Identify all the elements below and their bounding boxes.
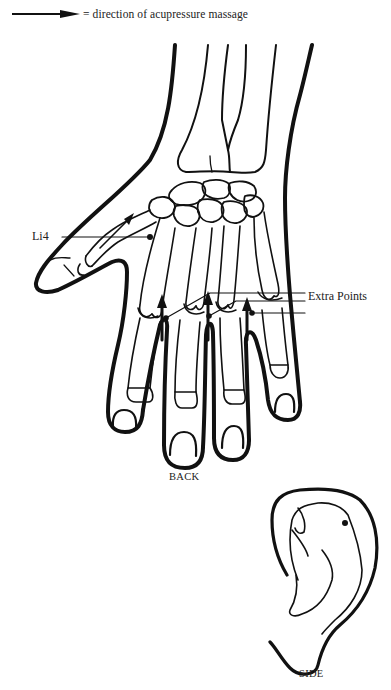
- acupressure-diagram: [0, 0, 391, 690]
- forearm-bones: [178, 45, 276, 173]
- side-view-caption: SIDE: [299, 668, 324, 679]
- extra-points-label: Extra Points: [308, 289, 367, 304]
- ear-outline: [270, 489, 377, 674]
- thumb-bones: [64, 210, 156, 276]
- li4-marker: [62, 234, 153, 240]
- hand-outline: [36, 45, 312, 468]
- back-view-caption: BACK: [169, 471, 199, 482]
- carpal-bones: [149, 180, 263, 226]
- li4-label: Li4: [32, 229, 49, 244]
